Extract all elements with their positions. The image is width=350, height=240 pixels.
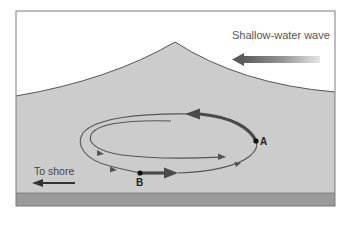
point-a-marker xyxy=(253,138,258,143)
point-b-marker xyxy=(137,170,142,175)
to-shore-label: To shore xyxy=(34,165,74,177)
seabed xyxy=(16,193,335,206)
point-a-label: A xyxy=(260,136,267,147)
point-b-label: B xyxy=(136,177,143,188)
shallow-water-wave-label: Shallow-water wave xyxy=(232,29,330,41)
